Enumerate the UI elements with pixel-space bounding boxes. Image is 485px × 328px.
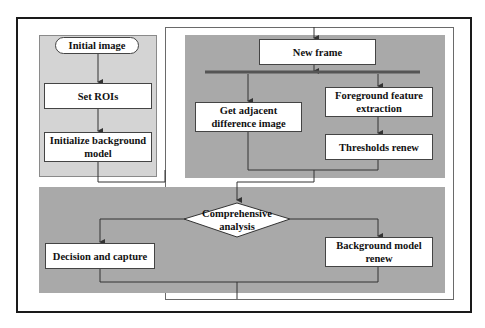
node-initialize-background-model: Initialize background model <box>44 132 152 162</box>
node-adjacent-difference-image: Get adjacent difference image <box>195 102 302 132</box>
node-background-model-renew: Background model renew <box>325 237 433 267</box>
node-initial-image: Initial image <box>55 37 139 54</box>
node-new-frame: New frame <box>259 39 376 65</box>
node-thresholds-renew: Thresholds renew <box>325 134 433 160</box>
node-foreground-feature-extraction: Foreground feature extraction <box>325 87 433 117</box>
node-comprehensive-analysis: Comprehensive analysis <box>192 207 282 233</box>
node-decision-and-capture: Decision and capture <box>45 243 155 269</box>
node-set-rois: Set ROIs <box>44 83 152 109</box>
